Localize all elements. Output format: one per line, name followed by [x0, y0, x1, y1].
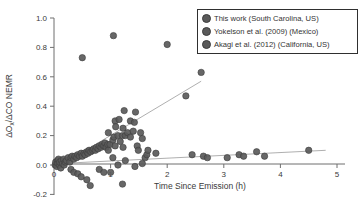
marker-circle-icon — [202, 40, 211, 49]
data-point-series-0 — [105, 147, 111, 153]
data-point-series-0 — [84, 177, 90, 183]
legend-item: Akagi et al. (2012) (California, US) — [202, 38, 354, 51]
data-point-series-0 — [145, 147, 151, 153]
legend: This work (South Carolina, US) Yokelson … — [197, 9, 358, 54]
data-point-series-2 — [240, 153, 246, 159]
data-point-series-0 — [110, 154, 116, 160]
y-tick-label: -0.2 — [33, 190, 47, 199]
x-axis-label: Time Since Emission (h) — [154, 181, 246, 191]
data-point-series-0 — [112, 124, 118, 130]
y-tick-label: 0.8 — [36, 43, 48, 52]
figure: -0.20.00.20.40.60.81.0012345Time Since E… — [0, 0, 363, 207]
data-point-series-0 — [117, 138, 123, 144]
y-axis-label: ΔOx/ΔCO NEMR — [4, 74, 15, 138]
data-point-series-0 — [112, 143, 118, 149]
data-point-series-2 — [253, 149, 259, 155]
y-tick-label: 0.2 — [36, 131, 48, 140]
data-point-series-2 — [306, 147, 312, 153]
legend-label: Akagi et al. (2012) (California, US) — [214, 40, 330, 49]
data-point-series-0 — [105, 129, 111, 135]
data-point-series-1 — [110, 32, 116, 38]
marker-circle-icon — [202, 14, 211, 23]
data-point-series-0 — [127, 134, 133, 140]
data-point-series-0 — [132, 109, 138, 115]
data-point-series-0 — [119, 181, 125, 187]
data-point-series-1 — [164, 41, 170, 47]
y-tick-label: 0.4 — [36, 102, 48, 111]
data-point-series-0 — [130, 128, 136, 134]
x-tick-label: 2 — [165, 170, 170, 179]
data-point-series-0 — [101, 169, 107, 175]
data-point-series-0 — [139, 160, 145, 166]
marker-circle-icon — [202, 27, 211, 36]
y-tick-label: 0.0 — [36, 161, 48, 170]
data-point-series-0 — [139, 135, 145, 141]
x-tick-label: 4 — [278, 170, 283, 179]
data-point-series-0 — [132, 163, 138, 169]
data-point-series-2 — [261, 153, 267, 159]
data-point-series-0 — [116, 116, 122, 122]
data-point-series-1 — [79, 54, 85, 60]
data-point-series-0 — [120, 144, 126, 150]
legend-item: This work (South Carolina, US) — [202, 12, 354, 25]
data-point-series-2 — [189, 152, 195, 158]
data-point-series-2 — [204, 154, 210, 160]
data-point-series-1 — [198, 69, 204, 75]
data-point-series-1 — [183, 93, 189, 99]
data-point-series-0 — [121, 107, 127, 113]
y-tick-label: 0.6 — [36, 73, 48, 82]
x-tick-label: 0 — [52, 170, 57, 179]
data-point-series-0 — [135, 147, 141, 153]
data-point-series-2 — [224, 154, 230, 160]
data-point-series-0 — [115, 162, 121, 168]
y-tick-label: 1.0 — [36, 14, 48, 23]
x-tick-label: 3 — [222, 170, 227, 179]
data-point-series-0 — [137, 129, 143, 135]
legend-item: Yokelson et al. (2009) (Mexico) — [202, 25, 354, 38]
data-point-series-2 — [153, 150, 159, 156]
legend-label: This work (South Carolina, US) — [214, 14, 319, 23]
data-point-series-0 — [87, 182, 93, 188]
data-point-series-0 — [107, 169, 113, 175]
legend-label: Yokelson et al. (2009) (Mexico) — [214, 27, 318, 36]
x-tick-label: 5 — [335, 170, 340, 179]
data-point-series-0 — [122, 157, 128, 163]
data-point-series-0 — [131, 119, 137, 125]
